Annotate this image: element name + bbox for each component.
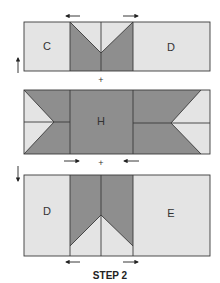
middle-unit: H [24, 90, 210, 154]
plus-sign: + [98, 158, 103, 168]
block-label-d: D [167, 41, 175, 53]
block-label-d: D [43, 205, 51, 217]
block-label-c: C [43, 40, 51, 52]
plus-sign: + [98, 75, 103, 85]
block-label-e: E [167, 207, 174, 219]
quilt-assembly-diagram: C D + H + D E STEP 2 [0, 0, 220, 283]
bottom-unit: D E [24, 175, 210, 256]
step-caption: STEP 2 [93, 270, 128, 281]
block-label-h: H [97, 115, 105, 127]
top-unit: C D [24, 22, 210, 71]
